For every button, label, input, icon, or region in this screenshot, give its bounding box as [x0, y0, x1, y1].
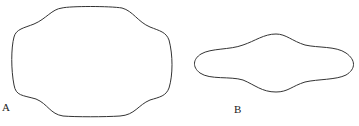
figure-b-label: B	[234, 104, 241, 115]
shape-b-outline	[194, 34, 353, 92]
shapes-canvas	[0, 0, 359, 126]
figure-a-label: A	[2, 102, 10, 113]
shape-a-outline	[12, 7, 172, 117]
